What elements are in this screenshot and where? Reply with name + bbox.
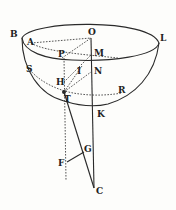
- label-R: R: [118, 86, 125, 95]
- label-P: P: [58, 50, 65, 59]
- label-L: L: [160, 34, 166, 43]
- line-FG: [67, 152, 84, 162]
- label-K: K: [97, 110, 105, 119]
- label-O: O: [88, 28, 96, 37]
- label-T: T: [64, 95, 71, 104]
- hemisphere-diagram: B O L A P M S I N H R T K G F C: [0, 0, 176, 210]
- label-M: M: [94, 49, 104, 58]
- line-TC: [64, 92, 94, 188]
- label-C: C: [96, 187, 103, 196]
- label-I: I: [77, 67, 81, 76]
- label-B: B: [10, 30, 18, 39]
- label-G: G: [84, 145, 92, 154]
- label-H: H: [56, 78, 65, 87]
- label-S: S: [26, 65, 33, 74]
- bowl-outline: [22, 38, 159, 106]
- label-N: N: [94, 67, 102, 76]
- label-F: F: [58, 159, 64, 168]
- label-A: A: [27, 38, 34, 47]
